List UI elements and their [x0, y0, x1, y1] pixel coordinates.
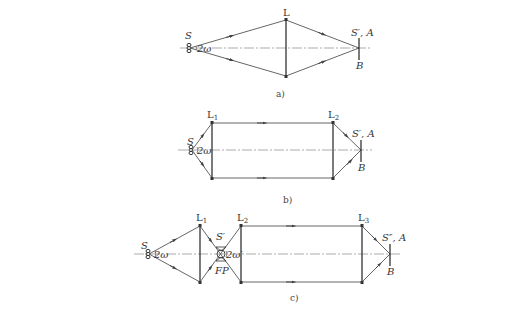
- lens-tip-icon: [199, 281, 202, 284]
- angle-label: 2ω: [196, 43, 212, 54]
- angle-label: 2ω: [196, 145, 212, 156]
- bottom-label: B: [357, 162, 365, 173]
- ray-arrow-icon: [226, 36, 232, 38]
- ray-arrow-icon: [208, 237, 211, 241]
- field-stop-label: FP: [214, 265, 229, 276]
- ray-arrow-icon: [343, 133, 347, 137]
- image-label: S″, A: [382, 232, 406, 243]
- diagram-c: L1 L2 L3 S 2ω S′ 2ω′ FP S″, A B c): [134, 212, 406, 303]
- lens2-label: L2: [237, 212, 248, 225]
- image-label: S′, A: [352, 128, 375, 139]
- lens1-label: L1: [207, 109, 218, 122]
- ray-arrow-icon: [347, 161, 351, 165]
- caption-a: a): [276, 89, 285, 99]
- source-label: S: [185, 30, 192, 41]
- lens-tip-icon: [199, 224, 202, 227]
- lens-tip-icon: [332, 177, 335, 180]
- ray-arrow-icon: [376, 264, 380, 268]
- field-stop-top-label: S′: [216, 231, 226, 242]
- lens-tip-icon: [240, 281, 243, 284]
- caption-c: c): [290, 293, 299, 303]
- ray-arrow-icon: [200, 161, 203, 165]
- ray-arrow-icon: [170, 266, 175, 269]
- lens-label: L: [283, 7, 290, 18]
- lens-tip-icon: [361, 281, 364, 284]
- optical-diagram: L S 2ω S′, A B a) L1 L2: [0, 0, 517, 319]
- source-label: S: [187, 136, 194, 147]
- ray-arrow-icon: [170, 240, 175, 243]
- angle2-label: 2ω′: [225, 249, 244, 260]
- lens-tip-icon: [240, 224, 243, 227]
- ray-arrow-icon: [318, 61, 324, 63]
- lens-tip-icon: [285, 18, 288, 21]
- lens1-label: L1: [196, 212, 207, 225]
- caption-b: b): [283, 195, 292, 205]
- lens-tip-icon: [361, 224, 364, 227]
- lens-tip-icon: [211, 177, 214, 180]
- image-label: S′, A: [351, 27, 374, 38]
- angle-label: 2ω: [153, 249, 169, 260]
- diagram-b: L1 L2 S 2ω S′, A B b): [178, 109, 375, 205]
- bottom-label: B: [355, 60, 363, 71]
- ray-arrow-icon: [208, 267, 211, 271]
- ray-arrow-icon: [372, 236, 376, 240]
- ray-arrow-icon: [226, 59, 232, 61]
- ray-arrow-icon: [318, 32, 324, 34]
- bottom-label: B: [386, 266, 394, 277]
- lens-tip-icon: [285, 75, 288, 78]
- source-label: S: [141, 240, 148, 251]
- lens2-label: L2: [328, 109, 339, 122]
- ray-arrow-icon: [200, 135, 203, 139]
- lens3-label: L3: [358, 212, 369, 225]
- diagram-a: L S 2ω S′, A B a): [180, 7, 374, 99]
